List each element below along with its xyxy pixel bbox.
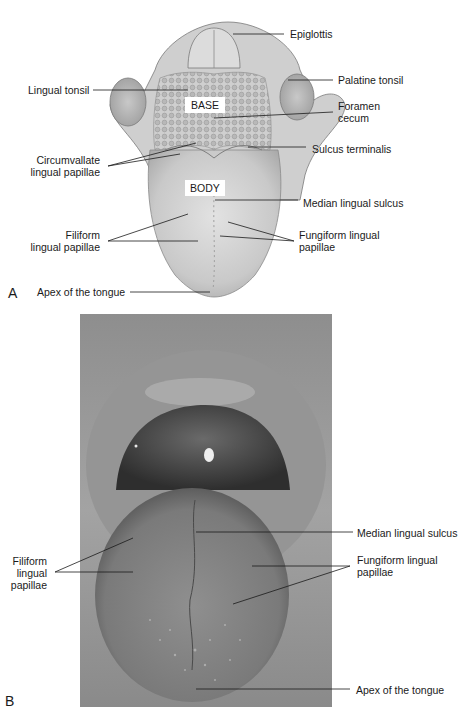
photo-label-fungiform-line2: papillae (357, 566, 393, 578)
photo-label-filiform-line3: papillae (4, 579, 47, 591)
photo-label-fungiform-line1: Fungiform lingual (357, 554, 438, 566)
panel-letter-b: B (5, 694, 14, 708)
photo-label-filiform-line1: Filiform (4, 555, 47, 567)
photo-label-filiform-line2: lingual (4, 567, 47, 579)
photo-label-apex: Apex of the tongue (356, 684, 444, 696)
mouth-photograph (0, 0, 461, 717)
photo-label-median-lingual-sulcus: Median lingual sulcus (357, 527, 457, 539)
